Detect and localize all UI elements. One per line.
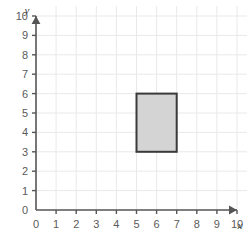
y-axis-tick-label: 8 [22,49,28,61]
y-axis-tick-label: 2 [22,165,28,177]
y-axis-tick-label: 4 [22,126,28,138]
x-axis-tick-label: 7 [174,218,180,230]
plotted-rectangle [137,94,177,152]
x-axis-label: x [237,219,243,231]
y-axis-tick-label: 1 [22,185,28,197]
x-axis-tick-label: 3 [93,218,99,230]
x-axis-tick-label: 2 [73,218,79,230]
x-axis-tick-label: 5 [133,218,139,230]
x-axis-tick-label: 8 [194,218,200,230]
y-axis-tick-label: 0 [22,204,28,216]
x-axis-tick-label: 0 [33,218,39,230]
y-axis-tick-label: 5 [22,107,28,119]
y-axis-tick-label: 6 [22,88,28,100]
x-axis-tick-label: 9 [214,218,220,230]
coordinate-plane-figure: 012345678910 012345678910 x y [0,0,250,237]
y-axis-label: y [24,4,30,16]
y-axis-tick-label: 3 [22,146,28,158]
plotted-shapes-group [137,94,177,152]
y-axis-tick-label: 9 [22,29,28,41]
x-axis-tick-label: 4 [113,218,119,230]
x-axis-tick-label: 6 [154,218,160,230]
x-axis-tick-label: 1 [53,218,59,230]
coordinate-plane-svg: 012345678910 012345678910 x y [0,0,250,237]
y-axis-tick-label: 7 [22,68,28,80]
